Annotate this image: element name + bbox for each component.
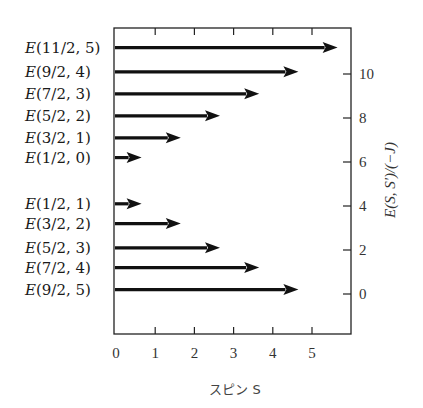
state-label-symbol: E: [24, 195, 36, 213]
x-tick-label: 0: [112, 345, 120, 361]
x-tick-label: 2: [191, 345, 199, 361]
arrow-head: [283, 66, 298, 77]
arrow-head: [244, 88, 259, 99]
state-labels: E(11/2, 5)E(9/2, 4)E(7/2, 3)E(5/2, 2)E(3…: [24, 39, 100, 299]
state-label-symbol: E: [24, 63, 36, 81]
state-label: E(7/2, 4): [24, 259, 91, 277]
x-axis-ticks: 012345: [112, 28, 316, 361]
arrow-head: [166, 132, 181, 143]
state-label-symbol: E: [24, 149, 36, 167]
state-label-symbol: E: [24, 281, 36, 299]
state-label-symbol: E: [24, 85, 36, 103]
state-label: E(1/2, 0): [24, 149, 91, 167]
state-label-symbol: E: [24, 215, 36, 233]
state-label-symbol: E: [24, 107, 36, 125]
state-label-args: (7/2, 3): [36, 85, 91, 103]
y-tick-label: 2: [359, 242, 367, 258]
state-label: E(5/2, 2): [24, 107, 91, 125]
state-label-args: (1/2, 1): [36, 195, 91, 213]
state-label: E(9/2, 4): [24, 63, 91, 81]
y-tick-label: 6: [359, 154, 367, 170]
spin-energy-chart: 012345 0246810 E(11/2, 5)E(9/2, 4)E(7/2,…: [0, 0, 423, 408]
x-tick-label: 1: [151, 345, 159, 361]
state-label-symbol: E: [24, 259, 36, 277]
state-label-args: (11/2, 5): [36, 39, 100, 57]
state-label: E(7/2, 3): [24, 85, 91, 103]
arrow-series: [115, 42, 338, 295]
y-tick-label: 0: [359, 286, 367, 302]
y-axis-ticks: 0246810: [343, 66, 374, 302]
y-axis-label: E(S, S')/(−J): [382, 142, 399, 219]
state-label: E(3/2, 1): [24, 129, 91, 147]
state-label: E(11/2, 5): [24, 39, 100, 57]
arrow-head: [166, 218, 181, 229]
state-label-args: (3/2, 2): [36, 215, 91, 233]
arrow-head: [127, 152, 142, 163]
state-label-symbol: E: [24, 39, 36, 57]
arrow-head: [205, 242, 220, 253]
state-label-args: (1/2, 0): [36, 149, 91, 167]
y-tick-label: 10: [359, 66, 374, 82]
state-label-symbol: E: [24, 129, 36, 147]
y-tick-label: 4: [359, 198, 367, 214]
state-label-symbol: E: [24, 239, 36, 257]
arrow-head: [205, 110, 220, 121]
state-label-args: (9/2, 4): [36, 63, 91, 81]
state-label-args: (3/2, 1): [36, 129, 91, 147]
state-label: E(3/2, 2): [24, 215, 91, 233]
arrow-head: [323, 42, 338, 53]
state-label: E(1/2, 1): [24, 195, 91, 213]
state-label-args: (9/2, 5): [36, 281, 91, 299]
x-axis-label: スピン S: [209, 382, 260, 397]
state-label: E(9/2, 5): [24, 281, 91, 299]
x-tick-label: 5: [308, 345, 316, 361]
state-label-args: (7/2, 4): [36, 259, 91, 277]
arrow-head: [244, 262, 259, 273]
arrow-head: [283, 284, 298, 295]
state-label-args: (5/2, 3): [36, 239, 91, 257]
y-tick-label: 8: [359, 110, 367, 126]
arrow-head: [127, 198, 142, 209]
state-label-args: (5/2, 2): [36, 107, 91, 125]
state-label: E(5/2, 3): [24, 239, 91, 257]
x-tick-label: 3: [230, 345, 238, 361]
x-tick-label: 4: [269, 345, 277, 361]
